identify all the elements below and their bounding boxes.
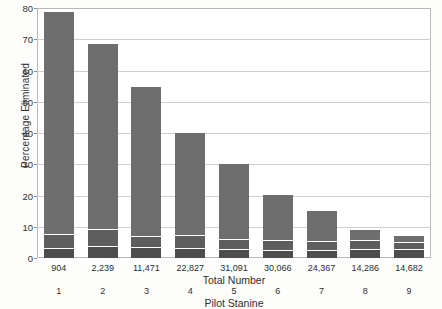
bar-segment-top [394, 236, 424, 243]
bar-stack[interactable] [88, 44, 118, 259]
bar-stack[interactable] [175, 133, 205, 258]
total-number-label: 24,367 [308, 263, 336, 273]
y-tick-label: 20 [22, 190, 33, 201]
y-tick-label: 10 [22, 221, 33, 232]
bar-segment-bottom [307, 251, 337, 259]
total-number-label: 31,091 [220, 263, 248, 273]
stanine-tick-label: 8 [363, 286, 368, 296]
total-number-label: 30,066 [264, 263, 292, 273]
y-tick-label: 70 [22, 34, 33, 45]
bar-segment-top [350, 230, 380, 241]
y-tick-label: 50 [22, 96, 33, 107]
bar-segment-middle [394, 243, 424, 250]
y-tick-label: 40 [22, 128, 33, 139]
stanine-tick-label: 5 [231, 286, 236, 296]
bar-segment-top [131, 87, 161, 237]
bar-segment-bottom [394, 250, 424, 258]
total-number-label: 14,682 [395, 263, 423, 273]
stanine-tick-label: 2 [100, 286, 105, 296]
chart-page: Percentage Eliminated 01020304050607080 … [0, 0, 442, 309]
bar-series [37, 8, 431, 258]
bar-segment-middle [350, 241, 380, 250]
stanine-tick-label: 1 [56, 286, 61, 296]
bar-segment-bottom [88, 247, 118, 258]
y-tick-label: 60 [22, 65, 33, 76]
bar-stack[interactable] [394, 236, 424, 258]
bar-segment-middle [219, 240, 249, 250]
bar-segment-top [263, 195, 293, 242]
bar-segment-bottom [44, 249, 74, 258]
stanine-tick-label: 6 [275, 286, 280, 296]
secondary-x-axis-title: Total Number [37, 274, 431, 286]
stanine-tick-label: 3 [144, 286, 149, 296]
y-axis-title: Percentage Eliminated [20, 36, 31, 196]
bar-segment-bottom [263, 251, 293, 259]
bar-segment-top [175, 133, 205, 236]
x-axis-title: Pilot Stanine [37, 297, 431, 309]
bar-segment-middle [44, 235, 74, 248]
bar-segment-middle [88, 230, 118, 247]
bar-segment-top [88, 44, 118, 231]
bar-segment-bottom [219, 250, 249, 258]
stanine-tick-label: 4 [188, 286, 193, 296]
total-number-label: 11,471 [133, 263, 160, 273]
bar-stack[interactable] [307, 211, 337, 258]
bar-stack[interactable] [131, 87, 161, 258]
y-tick-label: 80 [22, 3, 33, 14]
y-tick-label: 0 [28, 253, 33, 264]
bar-stack[interactable] [219, 164, 249, 258]
bar-segment-middle [175, 236, 205, 249]
bar-segment-bottom [175, 249, 205, 258]
bar-stack[interactable] [44, 12, 74, 258]
stanine-tick-label: 7 [319, 286, 324, 296]
bar-segment-top [307, 211, 337, 242]
total-number-label: 22,827 [176, 263, 204, 273]
bar-segment-top [219, 164, 249, 240]
stanine-tick-label: 9 [407, 286, 412, 296]
total-number-label: 14,286 [352, 263, 380, 273]
bar-segment-bottom [350, 250, 380, 258]
bar-segment-top [44, 12, 74, 235]
bar-stack[interactable] [350, 230, 380, 258]
bar-segment-bottom [131, 248, 161, 258]
y-tick-mark [34, 258, 37, 259]
total-number-label: 904 [51, 263, 66, 273]
bar-segment-middle [263, 241, 293, 250]
y-tick-label: 30 [22, 159, 33, 170]
bar-segment-middle [131, 237, 161, 248]
total-number-label: 2,239 [91, 263, 114, 273]
bar-stack[interactable] [263, 195, 293, 258]
bar-segment-middle [307, 242, 337, 251]
plot-area: 01020304050607080 [37, 8, 431, 258]
